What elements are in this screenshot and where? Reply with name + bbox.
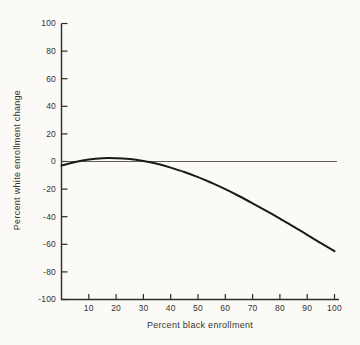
enrollment-change-chart: 100806040200-20-40-60-80-100102030405060… — [0, 0, 360, 345]
y-tick-label: 0 — [51, 156, 56, 166]
x-tick-label: 100 — [327, 303, 342, 313]
y-tick-label: -20 — [43, 184, 56, 194]
y-tick-label: 40 — [46, 101, 56, 111]
x-tick-label: 30 — [138, 303, 148, 313]
y-tick-label: -40 — [43, 212, 56, 222]
y-tick-label: -60 — [43, 239, 56, 249]
x-tick-label: 40 — [166, 303, 176, 313]
y-tick-label: 80 — [46, 46, 56, 56]
x-tick-label: 50 — [193, 303, 203, 313]
x-tick-label: 60 — [220, 303, 230, 313]
plot-canvas: 100806040200-20-40-60-80-100102030405060… — [0, 0, 360, 345]
x-tick-label: 80 — [275, 303, 285, 313]
y-tick-label: 60 — [46, 74, 56, 84]
y-tick-label: 20 — [46, 129, 56, 139]
x-tick-label: 70 — [248, 303, 258, 313]
x-axis-title: Percent black enrollment — [147, 320, 253, 330]
x-tick-label: 90 — [302, 303, 312, 313]
y-tick-label: -80 — [43, 267, 56, 277]
y-tick-label: -100 — [38, 294, 56, 304]
data-curve — [62, 158, 335, 251]
y-axis-title: Percent white enrollment change — [12, 90, 22, 230]
x-tick-label: 20 — [111, 303, 121, 313]
y-tick-label: 100 — [41, 18, 56, 28]
x-tick-label: 10 — [84, 303, 94, 313]
